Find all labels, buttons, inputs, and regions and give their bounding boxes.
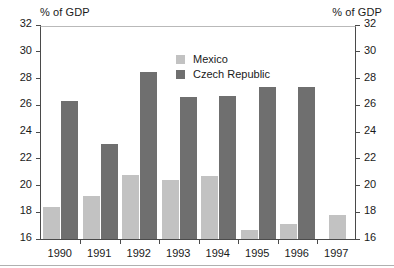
y-tick-label-right: 24 <box>364 124 376 136</box>
y-tick-mark-right <box>355 105 360 106</box>
y-tick-label-right: 16 <box>364 231 376 243</box>
chart-legend: MexicoCzech Republic <box>176 53 270 83</box>
y-tick-label-left: 22 <box>20 151 32 163</box>
bar-mexico-1995 <box>241 230 258 239</box>
x-tick-mark <box>199 239 200 244</box>
x-tick-label-1995: 1995 <box>245 247 269 259</box>
bar-mexico-1991 <box>83 196 100 239</box>
legend-label: Czech Republic <box>193 69 270 80</box>
x-tick-label-1993: 1993 <box>166 247 190 259</box>
x-tick-label-1996: 1996 <box>285 247 309 259</box>
x-tick-label-1992: 1992 <box>127 247 151 259</box>
bar-czech-republic-1991 <box>101 144 118 239</box>
x-tick-label-1990: 1990 <box>48 247 72 259</box>
bar-czech-republic-1990 <box>61 101 78 239</box>
bar-czech-republic-1996 <box>298 87 315 239</box>
y-tick-mark-right <box>355 158 360 159</box>
y-tick-mark-right <box>355 132 360 133</box>
x-tick-mark <box>80 239 81 244</box>
y-tick-label-left: 26 <box>20 97 32 109</box>
y-tick-label-left: 28 <box>20 71 32 83</box>
chart-figure: % of GDP % of GDP 1616181820202222242426… <box>0 0 394 268</box>
y-tick-label-right: 18 <box>364 204 376 216</box>
y-axis-unit-label-left: % of GDP <box>40 6 90 18</box>
y-tick-label-right: 28 <box>364 71 376 83</box>
y-tick-mark-left <box>36 51 41 52</box>
y-tick-mark-left <box>36 239 41 240</box>
legend-swatch-icon <box>176 70 185 79</box>
bar-mexico-1997 <box>329 215 346 239</box>
y-tick-label-right: 30 <box>364 44 376 56</box>
y-tick-label-left: 32 <box>20 17 32 29</box>
x-tick-mark <box>159 239 160 244</box>
bar-mexico-1994 <box>201 176 218 239</box>
y-tick-label-left: 24 <box>20 124 32 136</box>
y-tick-label-right: 22 <box>364 151 376 163</box>
y-tick-mark-right <box>355 51 360 52</box>
legend-item-mexico[interactable]: Mexico <box>176 53 270 66</box>
y-tick-mark-left <box>36 105 41 106</box>
bar-czech-republic-1995 <box>259 87 276 239</box>
bar-mexico-1993 <box>162 180 179 239</box>
legend-swatch-icon <box>176 55 185 64</box>
y-tick-mark-left <box>36 185 41 186</box>
y-tick-mark-right <box>355 185 360 186</box>
x-tick-label-1991: 1991 <box>87 247 111 259</box>
y-tick-label-left: 30 <box>20 44 32 56</box>
bar-czech-republic-1992 <box>140 72 157 239</box>
x-tick-mark <box>238 239 239 244</box>
bar-mexico-1992 <box>122 175 139 239</box>
y-tick-mark-left <box>36 212 41 213</box>
legend-item-czech-republic[interactable]: Czech Republic <box>176 68 270 81</box>
y-tick-label-right: 32 <box>364 17 376 29</box>
bar-czech-republic-1993 <box>180 97 197 239</box>
y-tick-mark-right <box>355 78 360 79</box>
y-tick-mark-left <box>36 158 41 159</box>
bar-czech-republic-1994 <box>219 96 236 239</box>
x-tick-label-1997: 1997 <box>324 247 348 259</box>
y-tick-label-left: 20 <box>20 178 32 190</box>
x-tick-mark <box>317 239 318 244</box>
y-tick-mark-right <box>355 212 360 213</box>
y-tick-mark-left <box>36 132 41 133</box>
y-tick-label-left: 16 <box>20 231 32 243</box>
y-tick-mark-left <box>36 25 41 26</box>
x-tick-mark <box>120 239 121 244</box>
x-tick-mark <box>278 239 279 244</box>
y-tick-label-right: 26 <box>364 97 376 109</box>
legend-label: Mexico <box>193 54 228 65</box>
bar-mexico-1990 <box>43 207 60 239</box>
y-tick-mark-right <box>355 25 360 26</box>
y-tick-label-right: 20 <box>364 178 376 190</box>
y-tick-label-left: 18 <box>20 204 32 216</box>
y-tick-mark-left <box>36 78 41 79</box>
bottom-divider <box>0 265 394 266</box>
bar-mexico-1996 <box>280 224 297 239</box>
x-tick-label-1994: 1994 <box>206 247 230 259</box>
y-tick-mark-right <box>355 239 360 240</box>
